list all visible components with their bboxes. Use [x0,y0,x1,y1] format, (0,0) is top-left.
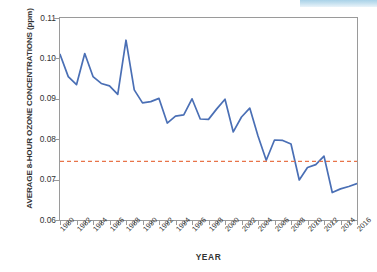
y-tick-label: 0.09 [16,93,56,103]
y-tick-label: 0.07 [16,174,56,184]
x-axis-title: YEAR [59,252,358,262]
plot-area [59,17,358,221]
ozone-line-series [60,40,357,192]
y-tick-label: 0.10 [16,53,56,63]
y-tick-label: 0.06 [16,215,56,225]
y-tick-label: 0.08 [16,134,56,144]
plot-svg [60,18,357,220]
y-tick-label: 0.11 [16,13,56,23]
ozone-trend-chart: AVERAGE 8-HOUR OZONE CONCENTRATIONS (ppm… [0,0,377,272]
